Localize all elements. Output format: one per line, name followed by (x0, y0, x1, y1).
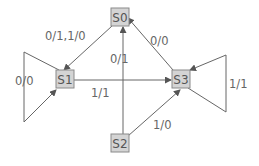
node-label-s3: S3 (173, 73, 188, 87)
node-label-s2: S2 (112, 137, 127, 151)
edge-label-s0-s1: 0/1,1/0 (45, 29, 86, 43)
node-s1: S1 (56, 70, 74, 88)
edge-label-s1-s3: 1/1 (91, 86, 110, 100)
edge-label-s2-s3: 1/0 (153, 118, 172, 132)
node-label-s0: S0 (112, 11, 127, 25)
node-s2: S2 (111, 134, 129, 152)
node-s0: S0 (111, 8, 129, 26)
node-s3: S3 (172, 70, 190, 88)
node-label-s1: S1 (57, 73, 72, 87)
edge-label-s1-self: 0/0 (15, 74, 34, 88)
state-diagram: 0/1,1/0 0/0 1/1 0/1 1/0 0/0 1/1 S0 S1 S2… (0, 0, 259, 166)
edge-label-s3-s0: 0/0 (150, 34, 169, 48)
edge-label-s2-s0: 0/1 (110, 52, 129, 66)
edge-label-s3-self: 1/1 (229, 77, 248, 91)
edge-s3-self-loop (188, 55, 226, 112)
